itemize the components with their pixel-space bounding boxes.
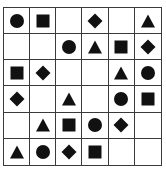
grid-cell-r1-c1 (4, 8, 30, 34)
grid-cell-r5-c4 (82, 113, 108, 139)
grid-cell-r1-c2 (30, 8, 56, 34)
diamond-icon (35, 65, 51, 81)
grid-cell-r4-c2 (30, 86, 56, 112)
grid-cell-r3-c1 (4, 60, 30, 86)
circle-icon (9, 13, 25, 29)
grid-cell-r2-c2 (30, 34, 56, 60)
grid-cell-r3-c5 (109, 60, 135, 86)
grid-cell-r3-c2 (30, 60, 56, 86)
grid-cell-r2-c1 (4, 34, 30, 60)
circle-icon (113, 91, 129, 107)
square-icon (35, 13, 51, 29)
grid-cell-r6-c3 (56, 139, 82, 165)
grid-cell-r3-c4 (82, 60, 108, 86)
grid-cell-r6-c4 (82, 139, 108, 165)
grid-cell-r4-c4 (82, 86, 108, 112)
triangle-icon (140, 13, 156, 29)
circle-icon (87, 117, 103, 133)
diamond-icon (87, 13, 103, 29)
grid-cell-r4-c1 (4, 86, 30, 112)
grid-cell-r6-c6 (135, 139, 161, 165)
grid-cell-r4-c5 (109, 86, 135, 112)
grid-cell-r2-c6 (135, 34, 161, 60)
grid-cell-r3-c3 (56, 60, 82, 86)
circle-icon (140, 65, 156, 81)
grid-cell-r6-c5 (109, 139, 135, 165)
grid-cell-r6-c2 (30, 139, 56, 165)
square-icon (61, 117, 77, 133)
grid-cell-r5-c1 (4, 113, 30, 139)
grid-cell-r1-c6 (135, 8, 161, 34)
grid-cell-r5-c2 (30, 113, 56, 139)
grid-cell-r2-c5 (109, 34, 135, 60)
grid-cell-r6-c1 (4, 139, 30, 165)
circle-icon (35, 144, 51, 160)
symbol-grid (3, 7, 162, 166)
triangle-icon (87, 39, 103, 55)
square-icon (9, 65, 25, 81)
grid-cell-r2-c4 (82, 34, 108, 60)
grid-cell-r1-c3 (56, 8, 82, 34)
grid-cell-r5-c3 (56, 113, 82, 139)
grid-cell-r3-c6 (135, 60, 161, 86)
grid-cell-r4-c6 (135, 86, 161, 112)
triangle-icon (113, 65, 129, 81)
grid-cell-r1-c5 (109, 8, 135, 34)
square-icon (87, 144, 103, 160)
triangle-icon (35, 117, 51, 133)
grid-cell-r5-c5 (109, 113, 135, 139)
diamond-icon (140, 39, 156, 55)
grid-cell-r2-c3 (56, 34, 82, 60)
grid-cell-r1-c4 (82, 8, 108, 34)
grid-cell-r5-c6 (135, 113, 161, 139)
grid-cell-r4-c3 (56, 86, 82, 112)
triangle-icon (61, 91, 77, 107)
square-icon (113, 39, 129, 55)
square-icon (140, 91, 156, 107)
diamond-icon (9, 91, 25, 107)
diamond-icon (61, 144, 77, 160)
triangle-icon (9, 144, 25, 160)
diamond-icon (113, 117, 129, 133)
circle-icon (61, 39, 77, 55)
